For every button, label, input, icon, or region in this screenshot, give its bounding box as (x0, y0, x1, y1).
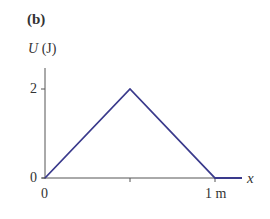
y-tick-label-0: 0 (30, 170, 37, 186)
x-tick-label-0: 0 (41, 186, 48, 202)
x-axis-label: x (247, 170, 254, 187)
y-tick-label-2: 2 (30, 81, 37, 97)
x-tick-label-1m: 1 m (205, 186, 226, 202)
potential-energy-line (45, 89, 242, 178)
